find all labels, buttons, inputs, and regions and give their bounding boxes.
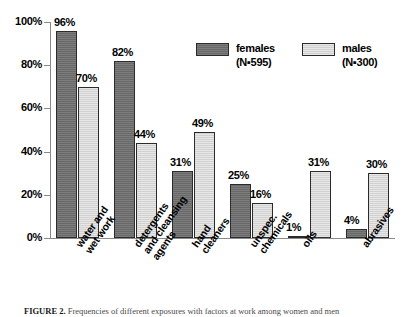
legend-label-females: females (236, 42, 275, 55)
figure-caption-text: Frequencies of different exposures with … (68, 306, 340, 316)
y-tick-mark (44, 108, 51, 109)
bar-value-label: 96% (54, 17, 75, 28)
bar-females-3 (230, 184, 251, 238)
legend-n-males: (N▪300) (342, 56, 377, 69)
legend-n-females: (N▪595) (236, 56, 271, 69)
legend-label-males: males (342, 42, 372, 55)
figure-number: FIGURE 2. (24, 306, 66, 316)
bar-value-label: 44% (134, 129, 155, 140)
figure-caption: FIGURE 2. Frequencies of different expos… (24, 306, 399, 316)
legend-swatch-males-icon (302, 43, 335, 56)
y-axis-line (50, 22, 51, 239)
bar-value-label: 25% (228, 170, 249, 181)
bar-value-label: 70% (76, 73, 97, 84)
bar-value-label: 31% (308, 157, 329, 168)
y-tick-mark (44, 22, 51, 23)
bar-females-0 (56, 31, 77, 238)
y-tick-mark (44, 65, 51, 66)
y-tick-label: 100% (0, 16, 42, 26)
y-tick-mark (44, 195, 51, 196)
y-tick-mark (44, 152, 51, 153)
bar-females-1 (114, 61, 135, 238)
bar-value-label: 31% (170, 157, 191, 168)
bar-value-label: 82% (112, 47, 133, 58)
y-tick-label: 80% (0, 59, 42, 69)
figure-chart: 0%20%40%60%80%100% 96%70%82%44%31%49%25%… (0, 0, 405, 317)
legend-swatch-females-icon (196, 43, 229, 56)
bar-value-label: 30% (366, 159, 387, 170)
y-tick-label: 0% (0, 232, 42, 242)
bar-males-4 (310, 171, 331, 238)
bar-value-label: 4% (344, 215, 359, 226)
bar-value-label: 49% (192, 118, 213, 129)
y-tick-label: 40% (0, 146, 42, 156)
bar-value-label: 16% (250, 189, 271, 200)
y-tick-label: 20% (0, 189, 42, 199)
y-tick-mark (44, 238, 51, 239)
y-tick-label: 60% (0, 102, 42, 112)
